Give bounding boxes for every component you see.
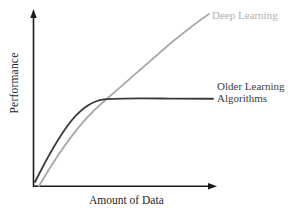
y-axis-label-container: Performance [8,33,26,133]
annotation-deep-learning: Deep Learning [212,9,278,21]
x-axis-arrowhead [208,183,217,189]
series-line-older-algorithms [35,98,213,182]
annotation-older-line-2: Algorithms [217,92,267,104]
chart-canvas [0,0,295,221]
annotation-older-line-1: Older Learning [217,80,285,92]
x-axis-label: Amount of Data [89,194,164,207]
y-axis-label: Performance [8,33,20,133]
y-axis-arrowhead [30,9,36,18]
series-line-deep-learning [39,14,209,186]
annotation-older-learning-algorithms: Older LearningAlgorithms [217,80,285,105]
chart-figure: Deep Learning Older LearningAlgorithms A… [0,0,295,221]
